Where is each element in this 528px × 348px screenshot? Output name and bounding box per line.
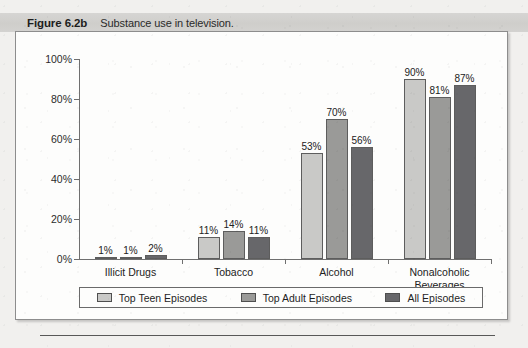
figure-number-label: Figure 6.2b — [27, 17, 87, 29]
y-tick-mark — [74, 219, 79, 220]
bar-value-label: 56% — [351, 135, 371, 146]
bar[interactable]: 11% — [248, 237, 270, 259]
category-label: Illicit Drugs — [79, 266, 182, 279]
bar[interactable]: 53% — [301, 153, 323, 259]
bar[interactable]: 81% — [429, 97, 451, 259]
y-tick-label: 40% — [51, 173, 72, 185]
figure-caption-band: Figure 6.2b Substance use in television. — [0, 13, 528, 32]
x-tick-mark — [182, 259, 183, 264]
bar[interactable]: 1% — [120, 257, 142, 259]
bar-value-label: 14% — [223, 219, 243, 230]
legend-item[interactable]: Top Teen Episodes — [97, 292, 208, 304]
bar[interactable]: 70% — [326, 119, 348, 259]
bar-value-label: 1% — [123, 245, 137, 256]
bar[interactable]: 11% — [198, 237, 220, 259]
bar-value-label: 81% — [429, 85, 449, 96]
bar-value-label: 87% — [454, 73, 474, 84]
bar-value-label: 2% — [148, 243, 162, 254]
legend-label: All Episodes — [407, 292, 465, 304]
legend-swatch — [97, 293, 112, 302]
bar[interactable]: 87% — [454, 85, 476, 259]
x-tick-mark — [388, 259, 389, 264]
bar-group: 1%1%2% — [95, 59, 167, 259]
bar[interactable]: 56% — [351, 147, 373, 259]
y-tick-mark — [74, 179, 79, 180]
bar-value-label: 11% — [249, 225, 268, 236]
legend-label: Top Adult Episodes — [263, 292, 352, 304]
bar[interactable]: 2% — [145, 255, 167, 259]
bar-value-label: 11% — [199, 225, 218, 236]
bar[interactable]: 14% — [223, 231, 245, 259]
y-tick-label: 80% — [51, 93, 72, 105]
y-axis-line — [79, 59, 80, 260]
y-tick-mark — [74, 259, 79, 260]
bar-value-label: 70% — [326, 107, 346, 118]
y-tick-label: 60% — [51, 133, 72, 145]
x-tick-mark — [285, 259, 286, 264]
bar-value-label: 1% — [98, 245, 112, 256]
y-tick-mark — [74, 139, 79, 140]
y-tick-label: 20% — [51, 213, 72, 225]
bar[interactable]: 1% — [95, 257, 117, 259]
category-label: Tobacco — [182, 266, 285, 279]
page-bottom-rule — [40, 335, 495, 336]
bar[interactable]: 90% — [404, 79, 426, 259]
legend-swatch — [241, 293, 256, 302]
legend-swatch — [385, 293, 400, 302]
y-tick-mark — [74, 59, 79, 60]
x-tick-mark — [491, 259, 492, 264]
y-tick-label: 0% — [57, 253, 72, 265]
legend-label: Top Teen Episodes — [119, 292, 208, 304]
chart-panel: 0%20%40%60%80%100% 1%1%2%11%14%11%53%70%… — [15, 31, 508, 320]
bar-value-label: 90% — [404, 67, 424, 78]
chart-legend: Top Teen EpisodesTop Adult EpisodesAll E… — [79, 287, 483, 308]
bar-group: 53%70%56% — [301, 59, 373, 259]
bar-value-label: 53% — [301, 141, 321, 152]
legend-item[interactable]: Top Adult Episodes — [241, 292, 352, 304]
figure-caption-text: Substance use in television. — [100, 17, 234, 29]
y-tick-label: 100% — [45, 53, 72, 65]
legend-item[interactable]: All Episodes — [385, 292, 465, 304]
bar-group: 90%81%87% — [404, 59, 476, 259]
category-label: Alcohol — [285, 266, 388, 279]
bar-group: 11%14%11% — [198, 59, 270, 259]
y-tick-mark — [74, 99, 79, 100]
plot-area: 0%20%40%60%80%100% 1%1%2%11%14%11%53%70%… — [79, 59, 491, 259]
